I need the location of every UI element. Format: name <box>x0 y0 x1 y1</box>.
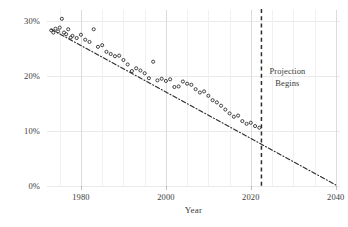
scatter-point <box>237 114 240 117</box>
scatter-point <box>79 33 82 36</box>
scatter-point <box>224 108 227 111</box>
scatter-point <box>203 90 206 93</box>
scatter-point <box>232 115 235 118</box>
scatter-point <box>147 77 150 80</box>
scatter-point <box>254 125 257 128</box>
scatter-point <box>109 52 112 55</box>
annotation-line-2: Begins <box>269 78 305 90</box>
scatter-point <box>126 63 129 66</box>
scatter-point <box>101 44 104 47</box>
scatter-point <box>164 79 167 82</box>
projection-begins-annotation: Projection Begins <box>269 66 305 89</box>
scatter-point <box>96 45 99 48</box>
scatter-point <box>207 94 210 97</box>
scatter-point <box>54 27 57 30</box>
scatter-point <box>211 99 214 102</box>
scatter-point <box>258 126 261 129</box>
scatter-point <box>169 78 172 81</box>
data-layer <box>0 0 348 227</box>
scatter-point <box>152 60 155 63</box>
scatter-point <box>88 40 91 43</box>
scatter-point <box>220 104 223 107</box>
scatter-point <box>65 33 68 36</box>
scatter-point <box>139 69 142 72</box>
scatter-point <box>228 112 231 115</box>
scatter-point <box>241 120 244 123</box>
scatter-point <box>190 83 193 86</box>
scatter-point <box>67 28 70 31</box>
scatter-point <box>186 82 189 85</box>
scatter-point <box>75 37 78 40</box>
scatter-point <box>113 55 116 58</box>
scatter-point <box>215 101 218 104</box>
scatter-point <box>194 88 197 91</box>
scatter-point <box>60 17 63 20</box>
scatter-point <box>58 26 61 29</box>
annotation-line-1: Projection <box>269 66 305 78</box>
scatter-point <box>160 77 163 80</box>
trend-line <box>51 29 336 185</box>
scatter-point <box>177 85 180 88</box>
scatter-point <box>122 59 125 62</box>
scatter-point <box>181 80 184 83</box>
scatter-point <box>118 54 121 57</box>
scatter-point <box>135 67 138 70</box>
scatter-point <box>156 79 159 82</box>
scatter-point <box>130 70 133 73</box>
x-axis-title: Year <box>154 205 234 215</box>
chart-container: 0%10%20%30% 1980200020202040 Projection … <box>0 0 348 227</box>
scatter-point <box>198 91 201 94</box>
scatter-point <box>249 121 252 124</box>
scatter-point <box>143 72 146 75</box>
scatter-point <box>105 50 108 53</box>
scatter-point <box>71 34 74 37</box>
scatter-point <box>92 28 95 31</box>
scatter-point <box>245 122 248 125</box>
scatter-point <box>84 38 87 41</box>
scatter-point <box>173 85 176 88</box>
scatter-points <box>50 17 261 129</box>
